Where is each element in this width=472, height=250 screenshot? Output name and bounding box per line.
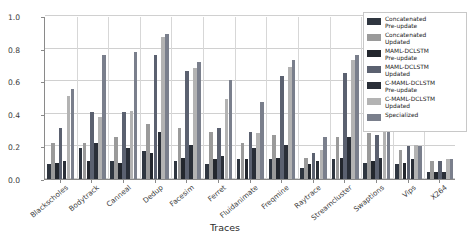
legend-label: Concatenated Pre-update [385,16,426,31]
x-tick-mark [408,180,409,183]
legend-label: C-MAML-DCLSTM Updated [385,96,435,111]
bar [450,159,454,179]
legend-swatch [367,114,381,121]
x-tick-mark [60,180,61,183]
bar [260,102,264,179]
y-tick-label: 0.0 [0,176,20,185]
bar-group [203,17,235,179]
bar [165,34,169,179]
legend-item: Concatenated Pre-update [367,16,464,31]
bar [418,146,422,179]
bar-group [171,17,203,179]
x-tick-mark [123,180,124,183]
legend-item: Specialized [367,112,464,127]
x-axis-label: Traces [150,222,300,233]
bar [229,80,233,179]
legend-item: C-MAML-DCLSTM Pre-update [367,80,464,95]
legend-swatch [367,82,381,89]
x-tick-mark [155,180,156,183]
legend-label: C-MAML-DCLSTM Pre-update [385,80,435,95]
x-tick-mark [313,180,314,183]
x-tick-mark [91,180,92,183]
bar [323,137,327,179]
chart-legend: Concatenated Pre-updateConcatenated Upda… [363,12,467,132]
legend-item: Concatenated Updated [367,32,464,47]
y-tick-mark [41,180,44,181]
bar-group [45,17,77,179]
x-tick-mark [186,180,187,183]
bar-group [108,17,140,179]
y-tick-label: 0.8 [0,45,20,54]
x-tick-mark [218,180,219,183]
legend-label: MAML-DCLSTM Updated [385,64,429,79]
legend-swatch [367,98,381,105]
legend-swatch [367,50,381,57]
bar-group [77,17,109,179]
bar-group [140,17,172,179]
legend-item: C-MAML-DCLSTM Updated [367,96,464,111]
x-tick-mark [250,180,251,183]
x-tick-mark [281,180,282,183]
legend-label: Specialized [385,112,418,119]
x-tick-mark [344,180,345,183]
bar [71,89,75,179]
y-tick-label: 0.2 [0,143,20,152]
legend-swatch [367,18,381,25]
y-tick-label: 0.4 [0,110,20,119]
bar [134,52,138,179]
x-tick-mark [376,180,377,183]
bar-group [266,17,298,179]
bar-group [298,17,330,179]
legend-item: MAML-DCLSTM Pre-update [367,48,464,63]
bar [102,55,106,179]
x-tick-mark [439,180,440,183]
legend-swatch [367,34,381,41]
bar-group [235,17,267,179]
bar [355,55,359,179]
legend-label: Concatenated Updated [385,32,426,47]
y-tick-label: 1.0 [0,13,20,22]
bar [292,60,296,179]
figure-canvas: Test Accuracy 0.00.20.40.60.81.0 Blacksc… [0,0,472,250]
legend-label: MAML-DCLSTM Pre-update [385,48,429,63]
legend-swatch [367,66,381,73]
legend-item: MAML-DCLSTM Updated [367,64,464,79]
bar-group [330,17,362,179]
y-tick-label: 0.6 [0,78,20,87]
bar [197,62,201,179]
